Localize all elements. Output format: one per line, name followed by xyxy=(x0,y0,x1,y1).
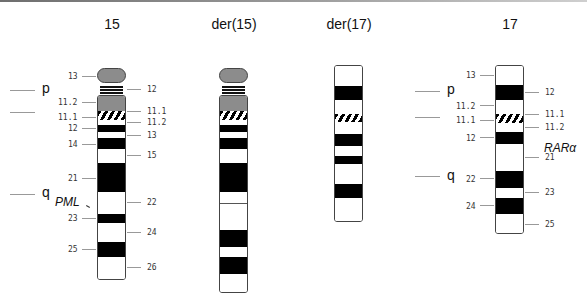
p-arm-line-right xyxy=(415,91,440,92)
top-border xyxy=(0,0,587,2)
band-tick xyxy=(82,102,96,103)
band-tick xyxy=(127,232,141,233)
band-label: 21 xyxy=(68,174,78,183)
der15-stalk xyxy=(222,86,245,88)
band-label: 11.2 xyxy=(456,102,475,111)
band-tick xyxy=(82,249,96,250)
band-tick xyxy=(525,224,539,225)
band-label: 11.1 xyxy=(147,107,166,116)
band-label: 25 xyxy=(68,245,78,254)
band-label: 11.1 xyxy=(545,110,564,119)
band-tick xyxy=(480,137,494,138)
band-label: 12 xyxy=(147,85,157,94)
band-label: 22 xyxy=(147,198,157,207)
der15-stalk xyxy=(222,89,245,91)
chr15-stalk xyxy=(100,89,123,91)
band-tick xyxy=(525,92,539,93)
band-label: 24 xyxy=(147,228,157,237)
band-label: 14 xyxy=(68,140,78,149)
band-label: 22 xyxy=(466,175,476,184)
band-tick xyxy=(82,117,96,118)
band-label: 13 xyxy=(147,131,157,140)
chr15-satellite xyxy=(97,68,126,83)
band-label: 12 xyxy=(466,134,476,143)
band-label: 24 xyxy=(466,202,476,211)
band-tick xyxy=(127,267,141,268)
band-tick xyxy=(82,178,96,179)
band-tick xyxy=(525,114,539,115)
band-label: 11.2 xyxy=(58,98,77,107)
title-chr17: 17 xyxy=(502,16,518,32)
band-tick xyxy=(82,218,96,219)
band-label: 21 xyxy=(545,153,555,162)
band-tick xyxy=(480,105,494,106)
gene-label-pml: PML xyxy=(55,195,80,209)
chromosome-der15 xyxy=(219,95,248,293)
chr15-stalk xyxy=(100,86,123,88)
band-label: 15 xyxy=(147,151,157,160)
band-tick xyxy=(127,111,141,112)
chr15-stalk xyxy=(100,92,123,94)
band-label: 13 xyxy=(68,72,78,81)
band-tick xyxy=(480,120,494,121)
band-tick xyxy=(525,127,539,128)
centromere-line-left xyxy=(10,112,35,113)
chromosome-15 xyxy=(97,95,126,280)
band-label: 13 xyxy=(466,71,476,80)
band-label: 23 xyxy=(545,188,555,197)
der15-stalk xyxy=(222,92,245,94)
band-tick xyxy=(82,128,96,129)
p-arm-line-left xyxy=(10,90,35,91)
pml-arrow xyxy=(86,205,90,208)
band-label: 23 xyxy=(68,214,78,223)
chromosome-17 xyxy=(495,65,524,234)
band-tick xyxy=(480,178,494,179)
band-label: 25 xyxy=(545,220,555,229)
band-label: 11.2 xyxy=(147,118,166,127)
q-arm-label-right: q xyxy=(447,167,455,183)
band-tick xyxy=(127,202,141,203)
band-label: 12 xyxy=(68,124,78,133)
title-der17: der(17) xyxy=(326,16,371,32)
band-label: 26 xyxy=(147,263,157,272)
band-label: 11.2 xyxy=(545,123,564,132)
band-label: 11.1 xyxy=(58,113,77,122)
band-tick xyxy=(127,135,141,136)
band-tick xyxy=(82,76,96,77)
chromosome-der17 xyxy=(334,65,363,222)
band-tick xyxy=(127,89,141,90)
q-arm-line-left xyxy=(10,194,35,195)
band-label: 11.1 xyxy=(456,116,475,125)
band-tick xyxy=(82,144,96,145)
q-arm-line-right xyxy=(415,176,440,177)
band-tick xyxy=(127,155,141,156)
band-tick xyxy=(525,192,539,193)
centromere-line-right xyxy=(415,117,440,118)
title-der15: der(15) xyxy=(211,16,256,32)
band-tick xyxy=(480,205,494,206)
band-tick xyxy=(127,122,141,123)
p-arm-label-left: p xyxy=(42,80,50,96)
band-tick xyxy=(525,157,539,158)
p-arm-label-right: p xyxy=(447,81,455,97)
der15-satellite xyxy=(219,68,248,83)
band-tick xyxy=(480,75,494,76)
band-label: 12 xyxy=(545,88,555,97)
title-chr15: 15 xyxy=(104,16,120,32)
q-arm-label-left: q xyxy=(42,184,50,200)
